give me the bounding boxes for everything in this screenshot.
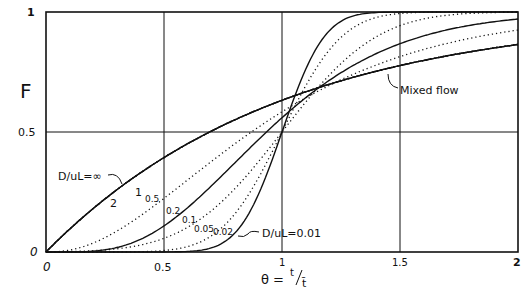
label-mixed-flow: Mixed flow (400, 84, 459, 97)
x-tick-0: 0 (43, 260, 51, 274)
label-005: 0.05 (194, 224, 214, 234)
x-tick-1: 1 (279, 257, 285, 268)
y-axis-label: F (20, 79, 32, 103)
label-2: 2 (110, 197, 117, 210)
label-02: 0.2 (166, 206, 180, 216)
f-curve-chart: F 1 0.5 0 0 0.5 1 1.5 2 θ = t t̄ D/uL=∞ … (0, 0, 532, 294)
x-tick-2: 2 (513, 256, 521, 269)
x-axis-tbar: t̄ (301, 277, 307, 290)
x-axis-theta: θ = (261, 272, 284, 287)
y-tick-0: 0 (30, 245, 38, 259)
arrow-mixed-flow (388, 74, 398, 88)
y-tick-05: 0.5 (18, 126, 36, 139)
label-002: 0.02 (213, 227, 233, 237)
arrow-d-inf (108, 174, 122, 184)
x-axis-t: t (290, 267, 294, 278)
label-05: 0.5 (145, 194, 159, 204)
label-d-001: D/uL=0.01 (262, 227, 321, 240)
x-tick-15: 1.5 (392, 257, 408, 268)
label-d-inf: D/uL=∞ (58, 170, 102, 183)
label-1: 1 (135, 186, 142, 199)
arrow-d-001 (238, 231, 259, 236)
x-tick-05: 0.5 (154, 261, 172, 274)
y-tick-1: 1 (27, 6, 35, 19)
